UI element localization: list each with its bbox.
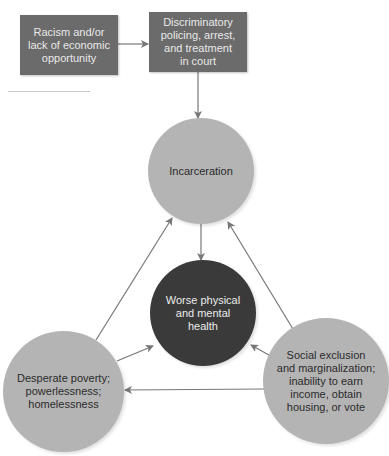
box-racism-label: Racism and/or lack of economic opportuni… [28, 26, 110, 65]
box-racism: Racism and/or lack of economic opportuni… [20, 15, 118, 75]
node-incarceration: Incarceration [148, 118, 254, 224]
node-social-exclusion: Social exclusion and marginalization; in… [263, 318, 389, 444]
node-incarceration-label: Incarceration [169, 165, 233, 178]
node-social-exclusion-label: Social exclusion and marginalization; in… [277, 349, 375, 414]
node-desperate-poverty-label: Desperate poverty; powerlessness; homele… [17, 372, 110, 411]
node-worse-health: Worse physical and mental health [150, 260, 256, 366]
node-desperate-poverty: Desperate poverty; powerlessness; homele… [3, 331, 124, 452]
box-discriminatory-policing-label: Discriminatory policing, arrest, and tre… [161, 16, 236, 68]
node-worse-health-label: Worse physical and mental health [166, 294, 240, 333]
arrow-exclusion-to-poverty [125, 389, 264, 390]
box-discriminatory-policing: Discriminatory policing, arrest, and tre… [149, 12, 247, 72]
arrow-poverty-to-health [117, 346, 153, 361]
